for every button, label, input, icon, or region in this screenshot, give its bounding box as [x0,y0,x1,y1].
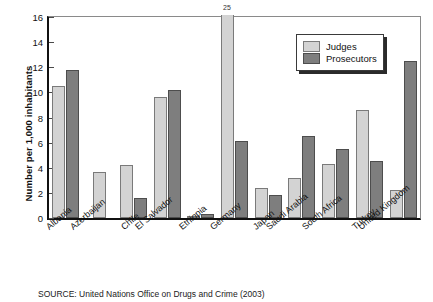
chart-legend: Judges Prosecutors [296,34,384,71]
bar-group [150,17,184,218]
y-tick-label: 12 [19,62,43,73]
source-caption: SOURCE: United Nations Office on Drugs a… [38,289,265,299]
legend-swatch-judges [303,41,320,52]
y-tick-label: 4 [19,162,43,173]
y-tick-label: 8 [19,112,43,123]
y-tick-label: 16 [19,12,43,23]
legend-item-prosecutors: Prosecutors [303,53,377,64]
legend-label-judges: Judges [326,42,357,52]
y-tick-label: 10 [19,87,43,98]
legend-swatch-prosecutors [303,53,320,64]
bar-group [218,17,252,218]
bar-prosecutors-south-africa [336,149,349,218]
y-tick-label: 0 [19,213,43,224]
y-tick-label: 14 [19,37,43,48]
bar-prosecutors-saudi-arabia [302,136,315,218]
bar-value-annotation: 25 [223,4,231,11]
legend-item-judges: Judges [303,41,377,52]
bar-judges-germany [221,15,234,218]
bar-group [116,17,150,218]
y-tick-label: 6 [19,137,43,148]
chart-figure: Number per 1,000 inhabitants 02468101214… [0,0,433,302]
y-tick-label: 2 [19,187,43,198]
bar-group [184,17,218,218]
bar-judges-turkey [356,110,369,218]
bar-prosecutors-albania [66,70,79,218]
bar-group [251,17,285,218]
bar-judges-albania [52,86,65,218]
legend-label-prosecutors: Prosecutors [326,54,377,64]
bar-group [83,17,117,218]
bar-group [49,17,83,218]
bar-judges-chile [120,165,133,218]
